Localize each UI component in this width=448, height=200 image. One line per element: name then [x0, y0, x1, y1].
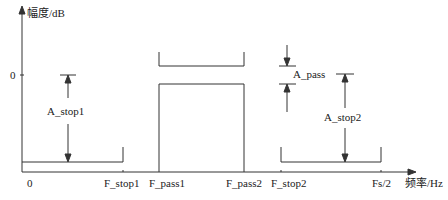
- tick-f-stop2: F_stop2: [271, 178, 306, 189]
- passband-upper-bound: [159, 52, 244, 66]
- a-stop2-label: A_stop2: [324, 112, 361, 123]
- tick-f-pass1: F_pass1: [149, 178, 185, 189]
- stopband1-bound: [22, 147, 123, 162]
- x-axis-arrow-icon: [408, 169, 416, 175]
- x-origin-label: 0: [27, 178, 33, 189]
- tick-f-pass2: F_pass2: [226, 178, 262, 189]
- tick-f-stop1: F_stop1: [104, 178, 139, 189]
- y-zero-label: 0: [10, 70, 16, 81]
- a-stop1-label: A_stop1: [47, 106, 84, 117]
- y-axis-label: 幅度/dB: [27, 8, 65, 19]
- stopband2-bound: [281, 147, 381, 162]
- filter-spec-diagram: [0, 0, 448, 200]
- y-axis-arrow-icon: [19, 6, 25, 14]
- a-pass-label: A_pass: [293, 69, 325, 80]
- passband-lower-bound: [159, 84, 244, 172]
- x-axis-label: 频率/Hz: [405, 178, 443, 189]
- tick-fs-half: Fs/2: [372, 178, 391, 189]
